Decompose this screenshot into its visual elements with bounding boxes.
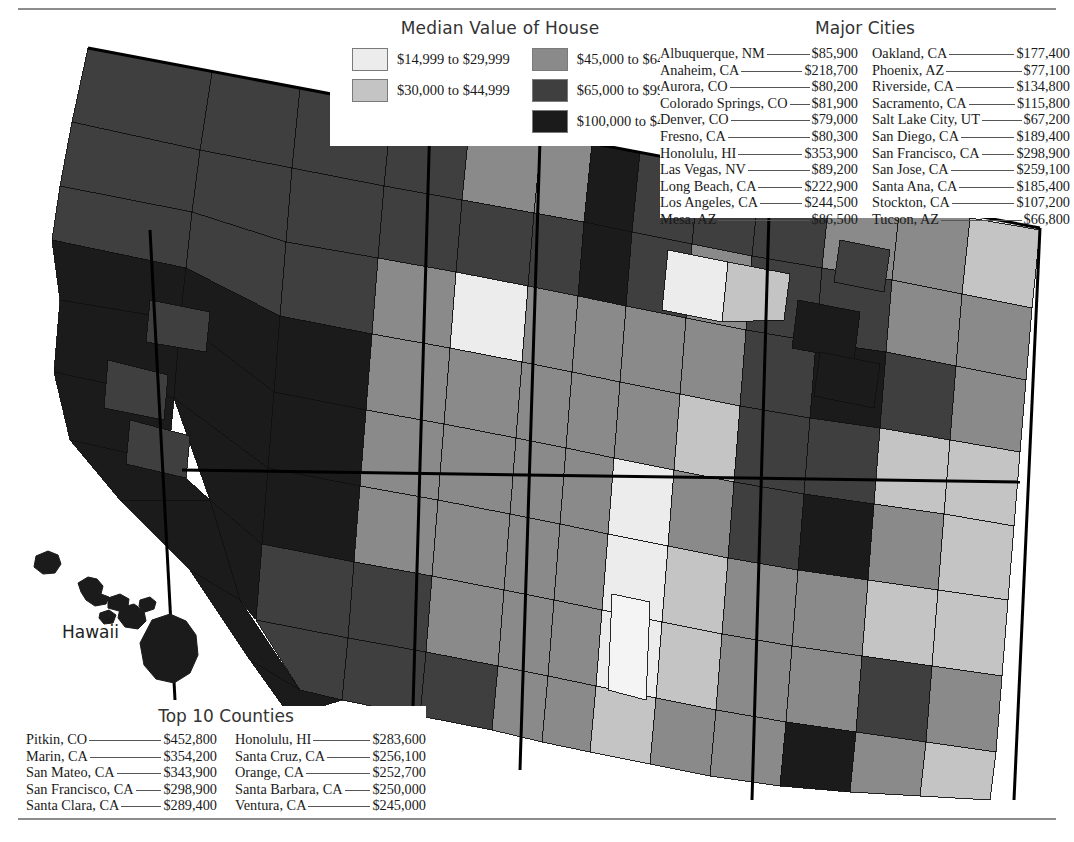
row-name: Riverside, CA xyxy=(872,78,954,95)
legend-column-1: $14,999 to $29,999 $30,000 to $44,999 xyxy=(352,48,510,133)
row-value: $256,100 xyxy=(372,748,426,765)
row-value: $259,100 xyxy=(1016,161,1070,178)
value-row: Phoenix, AZ$77,100 xyxy=(872,62,1070,79)
row-value: $115,800 xyxy=(1017,95,1070,112)
leader-line xyxy=(89,740,161,741)
row-value: $343,900 xyxy=(163,764,217,781)
leader-line xyxy=(327,757,370,758)
row-name: Santa Ana, CA xyxy=(872,178,957,195)
value-row: San Mateo, CA$343,900 xyxy=(26,764,217,781)
value-row: Honolulu, HI$283,600 xyxy=(235,731,426,748)
legend-columns: $14,999 to $29,999 $30,000 to $44,999 $4… xyxy=(330,48,670,133)
row-value: $107,200 xyxy=(1016,194,1070,211)
map-page: Hawaii Median Value of House $14,999 to … xyxy=(0,0,1074,842)
row-name: Phoenix, AZ xyxy=(872,62,944,79)
row-value: $66,800 xyxy=(1024,211,1070,228)
row-name: Honolulu, HI xyxy=(660,145,736,162)
value-row: Santa Ana, CA$185,400 xyxy=(872,178,1070,195)
value-row: Riverside, CA$134,800 xyxy=(872,78,1070,95)
row-value: $77,100 xyxy=(1024,62,1070,79)
leader-line xyxy=(758,187,802,188)
row-name: Ventura, CA xyxy=(235,797,306,814)
row-value: $185,400 xyxy=(1016,178,1070,195)
row-name: Albuquerque, NM xyxy=(660,45,765,62)
row-name: Santa Clara, CA xyxy=(26,797,119,814)
row-value: $177,400 xyxy=(1016,45,1070,62)
major-cities-columns: Albuquerque, NM$85,900Anaheim, CA$218,70… xyxy=(660,45,1070,228)
row-value: $245,000 xyxy=(372,797,426,814)
row-value: $298,900 xyxy=(163,781,217,798)
row-value: $244,500 xyxy=(804,194,858,211)
row-name: San Diego, CA xyxy=(872,128,959,145)
leader-line xyxy=(941,220,1022,221)
row-name: Stockton, CA xyxy=(872,194,950,211)
value-row: Honolulu, HI$353,900 xyxy=(660,145,858,162)
row-name: Colorado Springs, CO xyxy=(660,95,788,112)
legend-swatch-icon xyxy=(352,48,388,71)
leader-line xyxy=(956,87,1015,88)
legend-swatch-icon xyxy=(532,110,568,133)
row-name: Tucson, AZ xyxy=(872,211,939,228)
value-row: Santa Barbara, CA$250,000 xyxy=(235,781,426,798)
leader-line xyxy=(946,71,1021,72)
major-cities-panel: Major Cities Albuquerque, NM$85,900Anahe… xyxy=(660,18,1070,218)
leader-line xyxy=(969,104,1015,105)
leader-line xyxy=(313,740,370,741)
row-name: Mesa, AZ xyxy=(660,211,716,228)
value-row: Fresno, CA$80,300 xyxy=(660,128,858,145)
row-value: $222,900 xyxy=(804,178,858,195)
major-cities-title: Major Cities xyxy=(660,18,1070,38)
top-counties-column-1: Pitkin, CO$452,800Marin, CA$354,200San M… xyxy=(26,731,217,814)
top-counties-columns: Pitkin, CO$452,800Marin, CA$354,200San M… xyxy=(26,731,426,814)
hawaii-islands xyxy=(34,551,198,683)
value-row: Albuquerque, NM$85,900 xyxy=(660,45,858,62)
value-row: Anaheim, CA$218,700 xyxy=(660,62,858,79)
row-name: Marin, CA xyxy=(26,748,88,765)
row-value: $89,200 xyxy=(812,161,858,178)
value-row: Ventura, CA$245,000 xyxy=(235,797,426,814)
row-name: Oakland, CA xyxy=(872,45,947,62)
value-row: Pitkin, CO$452,800 xyxy=(26,731,217,748)
leader-line xyxy=(90,757,161,758)
legend-item[interactable]: $30,000 to $44,999 xyxy=(352,79,510,102)
top-counties-title: Top 10 Counties xyxy=(26,706,426,726)
value-row: Salt Lake City, UT$67,200 xyxy=(872,111,1070,128)
value-row: San Francisco, CA$298,900 xyxy=(26,781,217,798)
leader-line xyxy=(136,790,162,791)
value-row: Long Beach, CA$222,900 xyxy=(660,178,858,195)
legend-swatch-icon xyxy=(532,79,568,102)
legend-item[interactable]: $14,999 to $29,999 xyxy=(352,48,510,71)
leader-line xyxy=(308,806,370,807)
row-name: Santa Barbara, CA xyxy=(235,781,343,798)
value-row: Santa Cruz, CA$256,100 xyxy=(235,748,426,765)
major-cities-column-2: Oakland, CA$177,400Phoenix, AZ$77,100Riv… xyxy=(872,45,1070,228)
row-name: Orange, CA xyxy=(235,764,304,781)
row-name: Anaheim, CA xyxy=(660,62,739,79)
row-value: $289,400 xyxy=(163,797,217,814)
legend-swatch-icon xyxy=(532,48,568,71)
row-value: $80,200 xyxy=(812,78,858,95)
row-value: $283,600 xyxy=(372,731,426,748)
leader-line xyxy=(760,203,802,204)
top-counties-panel: Top 10 Counties Pitkin, CO$452,800Marin,… xyxy=(26,706,426,816)
value-row: Aurora, CO$80,200 xyxy=(660,78,858,95)
row-value: $189,400 xyxy=(1016,128,1070,145)
row-value: $81,900 xyxy=(812,95,858,112)
legend-item-label: $14,999 to $29,999 xyxy=(397,51,510,68)
row-name: San Francisco, CA xyxy=(26,781,134,798)
row-name: Pitkin, CO xyxy=(26,731,87,748)
leader-line xyxy=(738,154,802,155)
value-row: Colorado Springs, CO$81,900 xyxy=(660,95,858,112)
leader-line xyxy=(117,773,162,774)
value-row: San Diego, CA$189,400 xyxy=(872,128,1070,145)
row-name: Fresno, CA xyxy=(660,128,726,145)
leader-line xyxy=(121,806,161,807)
value-row: Los Angeles, CA$244,500 xyxy=(660,194,858,211)
leader-line xyxy=(748,170,810,171)
legend-item-label: $30,000 to $44,999 xyxy=(397,82,510,99)
row-value: $67,200 xyxy=(1024,111,1070,128)
row-value: $86,500 xyxy=(812,211,858,228)
value-row: San Jose, CA$259,100 xyxy=(872,161,1070,178)
legend-swatch-icon xyxy=(352,79,388,102)
leader-line xyxy=(731,120,810,121)
